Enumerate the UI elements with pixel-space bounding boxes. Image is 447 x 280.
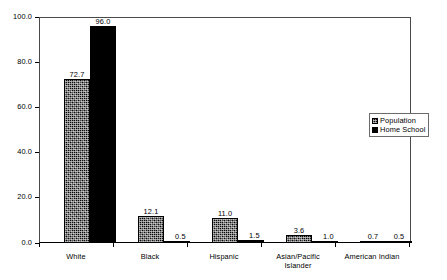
y-tick-label: 0.0: [21, 239, 32, 247]
bar-value-label: 72.7: [70, 71, 85, 79]
x-category-label-american-indian: American Indian: [329, 252, 415, 261]
bar-value-label: 11.0: [218, 210, 232, 218]
y-axis: 100.0 80.0 60.0 40.0 20.0 0.0: [0, 0, 39, 280]
x-tick-mark: [409, 243, 410, 247]
bar-value-label: 0.7: [368, 233, 379, 241]
legend: Population Home School: [369, 113, 429, 137]
bar-value-label: 96.0: [96, 18, 111, 26]
bar-population-asian-pacific-islander: 3.6: [286, 235, 312, 243]
bar-value-label: 1.5: [249, 232, 260, 240]
legend-swatch-icon: [372, 118, 378, 124]
x-tick-mark: [187, 243, 188, 247]
bar-population-white: 72.7: [64, 79, 90, 243]
bar-population-black: 12.1: [138, 216, 164, 243]
legend-swatch-icon: [372, 127, 378, 133]
bar-homeschool-white: 96.0: [90, 26, 116, 243]
y-tick-label: 80.0: [17, 58, 32, 66]
bars-layer: 72.7 96.0 12.1 0.5 11.0 1.5 3.6 1.0 0.7: [39, 17, 411, 243]
bar-value-label: 12.1: [144, 208, 159, 216]
bar-value-label: 1.0: [323, 233, 334, 241]
y-tick-label: 100.0: [13, 13, 32, 21]
x-tick-mark: [335, 243, 336, 247]
x-tick-mark: [113, 243, 114, 247]
x-category-label-hispanic: Hispanic: [187, 252, 261, 261]
x-category-label-white: White: [39, 252, 113, 261]
bar-chart: 100.0 80.0 60.0 40.0 20.0 0.0 72.7 96.0 …: [0, 0, 447, 280]
y-tick-label: 40.0: [17, 148, 32, 156]
y-tick-label: 60.0: [17, 103, 32, 111]
bar-value-label: 3.6: [294, 227, 305, 235]
bar-population-hispanic: 11.0: [212, 218, 238, 243]
x-category-label-black: Black: [113, 252, 187, 261]
legend-label: Population: [380, 116, 416, 125]
x-category-label-asian-pacific-islander: Asian/Pacific Islander: [261, 252, 335, 270]
bar-value-label: 0.5: [175, 233, 186, 241]
legend-item-home-school: Home School: [372, 125, 425, 134]
y-tick-label: 20.0: [17, 193, 32, 201]
legend-label: Home School: [380, 125, 425, 134]
x-axis: White Black Hispanic Asian/Pacific Islan…: [39, 243, 411, 280]
bar-value-label: 0.5: [394, 233, 405, 241]
legend-item-population: Population: [372, 116, 425, 125]
x-tick-mark: [261, 243, 262, 247]
x-tick-mark: [39, 243, 40, 247]
